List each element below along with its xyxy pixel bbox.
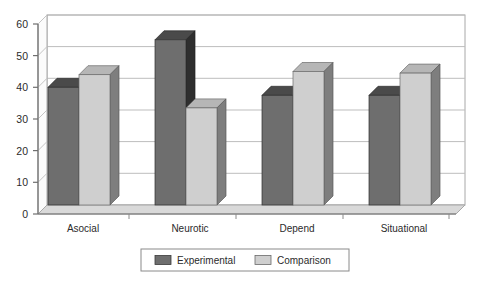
legend-swatch-experimental	[155, 256, 171, 265]
ytick-label-60: 60	[16, 18, 28, 30]
plot-left-wall	[38, 15, 47, 214]
legend-item-comparison[interactable]: Comparison	[255, 255, 331, 266]
xtick-label-neurotic: Neurotic	[171, 223, 208, 234]
legend-item-experimental[interactable]: Experimental	[155, 255, 235, 266]
category-axis-tick-labels: Asocial Neurotic Depend Situational	[67, 223, 427, 234]
bar-situational-comparison[interactable]	[400, 64, 440, 205]
ytick-label-10: 10	[16, 176, 28, 188]
ytick-label-20: 20	[16, 145, 28, 157]
ytick-label-40: 40	[16, 81, 28, 93]
category-axis	[38, 214, 456, 219]
bar-group-asocial	[48, 66, 119, 205]
xtick-label-situational: Situational	[381, 223, 428, 234]
xtick-label-asocial: Asocial	[67, 223, 99, 234]
value-axis-tick-labels: 60 50 40 30 20 10 0	[16, 18, 28, 220]
legend-swatch-comparison	[255, 256, 271, 265]
value-axis	[33, 24, 38, 214]
ytick-label-30: 30	[16, 113, 28, 125]
chart-canvas: 60 50 40 30 20 10 0	[0, 0, 488, 286]
legend-label-comparison: Comparison	[277, 255, 331, 266]
ytick-label-0: 0	[22, 208, 28, 220]
legend-label-experimental: Experimental	[177, 255, 235, 266]
bar-neurotic-comparison[interactable]	[186, 99, 226, 205]
plot-floor	[38, 205, 465, 214]
chart-legend: Experimental Comparison	[141, 249, 349, 271]
bar-asocial-comparison[interactable]	[79, 66, 119, 205]
bar-chart: 60 50 40 30 20 10 0	[0, 0, 488, 286]
bar-depend-comparison[interactable]	[293, 63, 333, 206]
xtick-label-depend: Depend	[279, 223, 314, 234]
ytick-label-50: 50	[16, 50, 28, 62]
